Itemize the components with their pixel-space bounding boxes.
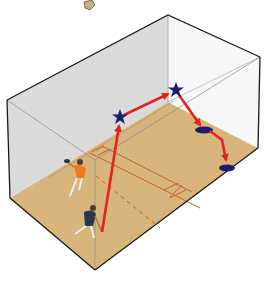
bounce-marker-2 [219,165,235,172]
decorative-object [84,0,95,10]
squash-court-diagram [0,0,272,281]
